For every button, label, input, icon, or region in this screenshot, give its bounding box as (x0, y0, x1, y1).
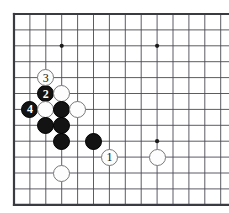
stone-black (53, 101, 70, 118)
stone-black (37, 117, 54, 134)
stone-black (53, 133, 70, 150)
stone-white (53, 165, 70, 182)
stone-white (53, 85, 70, 102)
stone-move-number: 2 (43, 88, 49, 100)
numbered-stone-black: 2 (37, 85, 54, 102)
stone-white (149, 149, 166, 166)
stone-move-number: 3 (43, 72, 49, 84)
numbered-stone-white: 1 (101, 149, 118, 166)
stone-black (53, 117, 70, 134)
stone-move-number: 1 (106, 151, 112, 163)
go-board-diagram: 1234 (0, 0, 229, 213)
stone-white (69, 101, 86, 118)
stone-move-number: 4 (27, 103, 33, 115)
numbered-stone-black: 4 (21, 101, 38, 118)
stone-white (37, 101, 54, 118)
stone-layer: 1234 (0, 0, 229, 213)
numbered-stone-white: 3 (37, 69, 54, 86)
stone-black (85, 133, 102, 150)
